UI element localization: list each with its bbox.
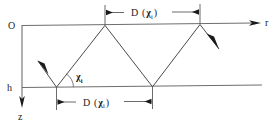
- surface-axis-line: [22, 23, 255, 26]
- surface-axis-group: [22, 20, 261, 26]
- top-dimension-group: D(χi): [105, 4, 200, 25]
- top-dim-arrow-right: [192, 9, 199, 15]
- bottom-dimension-group: D(χi): [57, 86, 153, 110]
- angle-label: χi: [75, 71, 83, 84]
- top-dim-arrow-left: [106, 10, 113, 16]
- r-axis-label: r: [265, 17, 269, 28]
- top-dim-paren-close: ): [154, 7, 158, 19]
- angle-arc: [67, 74, 74, 87]
- angle-sub: i: [81, 77, 83, 84]
- origin-label: O: [8, 20, 15, 31]
- bottom-dim-arrow-right: [145, 99, 152, 105]
- incoming-direction-arrow: [38, 61, 49, 75]
- h-depth-label: h: [7, 82, 12, 93]
- bottom-dim-D: D: [83, 97, 91, 108]
- ray-path-diagram: D(χi) D(χi) O r h z χi: [0, 0, 275, 123]
- depth-axis-group: [19, 25, 25, 108]
- ray-up-segment-2: [153, 25, 201, 87]
- bottom-dim-paren-close: ): [106, 97, 110, 109]
- ray-down-segment-1: [105, 25, 153, 86]
- angle-marker-group: [67, 74, 74, 87]
- ray-path-group: [38, 25, 219, 88]
- incoming-arrowhead: [38, 61, 49, 75]
- bottom-dimension-label: D(χi): [83, 97, 109, 110]
- ray-path-figure: D(χi) D(χi) O r h z χi: [0, 0, 275, 123]
- ray-incoming-segment: [38, 61, 57, 87]
- bottom-dim-arrow-left: [58, 99, 65, 105]
- top-dimension-label: D(χi): [131, 7, 157, 20]
- top-dim-D: D: [131, 7, 139, 18]
- z-axis-label: z: [18, 111, 23, 122]
